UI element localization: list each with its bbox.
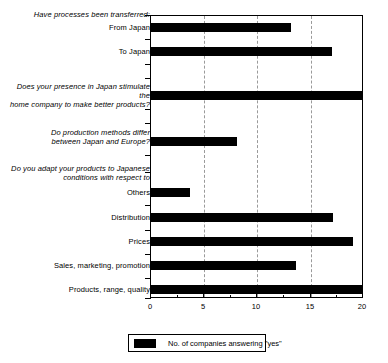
- bar-others: [150, 188, 190, 197]
- y-tick: [145, 109, 151, 110]
- y-tick: [145, 254, 151, 255]
- bar-distribution: [150, 213, 333, 222]
- bar-to-japan: [150, 47, 332, 56]
- bar-products-range-quality: [150, 285, 363, 294]
- y-tick: [145, 155, 151, 156]
- x-tick-label-10: 10: [252, 302, 260, 311]
- x-tick-15: [310, 294, 311, 298]
- x-tick-17_5: [336, 295, 337, 298]
- x-tick-2_5: [177, 295, 178, 298]
- row-label-presence-question: Does your presence in Japan stimulate th…: [5, 82, 150, 109]
- y-tick: [145, 205, 151, 206]
- chart-rows: Have processes been transferred: From Ja…: [0, 15, 388, 298]
- x-tick-5: [203, 294, 204, 298]
- bar-sales-marketing: [150, 261, 296, 270]
- x-tick-label-5: 5: [201, 302, 205, 311]
- y-tick: [145, 123, 151, 124]
- x-tick-label-15: 15: [306, 302, 314, 311]
- x-tick-7_5: [230, 295, 231, 298]
- x-tick-12_5: [283, 295, 284, 298]
- legend-swatch-yes: [134, 339, 156, 348]
- bar-chart: Have processes been transferred: From Ja…: [0, 0, 388, 363]
- row-label-production-methods: Do production methods differ between Jap…: [5, 128, 150, 146]
- bar-presence-stimulates: [150, 91, 363, 100]
- bar-production-methods: [150, 137, 237, 146]
- x-tick-0: [150, 294, 151, 298]
- bar-from-japan: [150, 23, 291, 32]
- row-label-sales-marketing: Sales, marketing, promotion: [5, 261, 150, 270]
- y-tick: [145, 230, 151, 231]
- x-tick-20: [362, 294, 363, 298]
- row-label-products-range: Products, range, quality: [5, 285, 150, 294]
- y-tick: [145, 39, 151, 40]
- x-axis: 0 5 10 15 20: [150, 298, 363, 316]
- y-tick: [145, 64, 151, 65]
- y-tick: [145, 15, 151, 16]
- x-tick-label-20: 20: [358, 302, 366, 311]
- x-tick-10: [256, 294, 257, 298]
- bar-prices: [150, 237, 353, 246]
- row-label-prices: Prices: [5, 237, 150, 246]
- legend: No. of companies answering "yes": [128, 334, 266, 352]
- row-label-others: Others: [5, 188, 150, 197]
- row-label-distribution: Distribution: [5, 213, 150, 222]
- row-label-heading: Have processes been transferred:: [5, 10, 150, 19]
- y-tick: [145, 78, 151, 79]
- row-label-adapt-question: Do you adapt your products to Japanese c…: [5, 164, 150, 182]
- legend-label-yes: No. of companies answering "yes": [168, 339, 282, 348]
- row-label-to-japan: To Japan: [5, 47, 150, 56]
- row-label-from-japan: From Japan: [5, 23, 150, 32]
- x-tick-label-0: 0: [148, 302, 152, 311]
- y-tick: [145, 278, 151, 279]
- y-tick: [145, 172, 151, 173]
